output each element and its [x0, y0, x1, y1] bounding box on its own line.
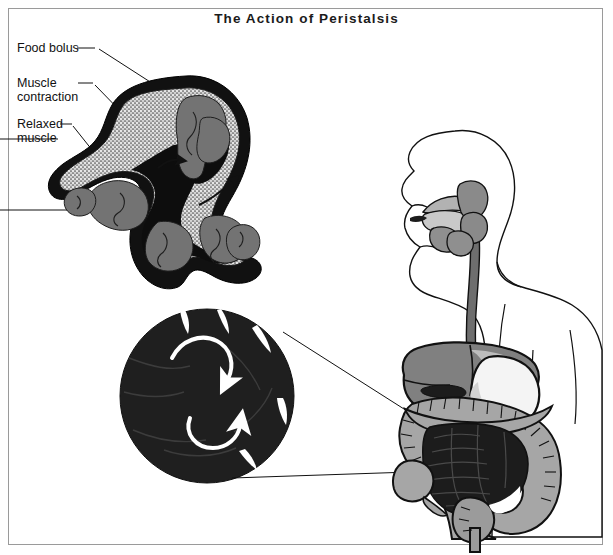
bolus-lower-far-right: [226, 225, 259, 260]
rectum-tube: [470, 528, 480, 552]
lower-jaw-tissue: [447, 231, 473, 256]
cecum: [393, 461, 433, 502]
peristalsis-cross-section: [48, 76, 261, 289]
figure-canvas: The Action of Peristalsis Food bolus Mus…: [0, 0, 613, 555]
illustration-svg: [0, 0, 613, 555]
bolus-left: [88, 181, 149, 231]
human-digestive-system: [393, 131, 602, 552]
